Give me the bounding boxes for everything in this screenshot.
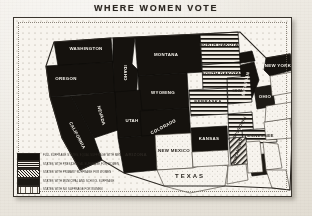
legend-swatch-municipal-suffrage bbox=[17, 178, 40, 186]
state-label-WY: WYOMING bbox=[151, 90, 175, 95]
legend-row: STATES WITH MUNICIPAL AND SCHOOL SUFFRAG… bbox=[17, 178, 149, 185]
map-legend: FULL SUFFRAGE STATES, EQUAL SUFFRAGE WIT… bbox=[17, 153, 149, 194]
state-label-NM: NEW MEXICO bbox=[158, 148, 190, 153]
legend-row: STATES WITH PRESIDENTIAL SUFFRAGE FOR WO… bbox=[17, 161, 149, 168]
state-label-MT: MONTANA bbox=[154, 52, 179, 57]
state-label-TN: TENNESSEE bbox=[244, 133, 273, 138]
legend-label-presidential-suffrage: STATES WITH PRESIDENTIAL SUFFRAGE FOR WO… bbox=[43, 164, 119, 167]
legend-swatch-primary-suffrage bbox=[17, 169, 40, 177]
map-frame: WASHINGTON OREGON IDAHO MONTANA WYOMING … bbox=[13, 17, 292, 197]
legend-row: STATES WITH PRIMARY SUFFRAGE FOR WOMEN bbox=[17, 170, 149, 177]
state-label-NY: NEW YORK bbox=[265, 63, 291, 68]
legend-swatch-full-suffrage bbox=[17, 153, 40, 161]
state-label-ID: IDAHO bbox=[123, 65, 128, 81]
state-label-OH: OHIO bbox=[259, 94, 272, 99]
state-label-UT: UTAH bbox=[125, 118, 138, 123]
legend-row: STATES WITH NO SUFFRAGE FOR WOMEN bbox=[17, 187, 149, 194]
legend-label-primary-suffrage: STATES WITH PRIMARY SUFFRAGE FOR WOMEN bbox=[43, 172, 111, 175]
state-label-ND: NORTH DAKOTA bbox=[200, 42, 239, 47]
legend-label-full-suffrage: FULL SUFFRAGE STATES, EQUAL SUFFRAGE WIT… bbox=[43, 155, 121, 158]
legend-label-no-suffrage: STATES WITH NO SUFFRAGE FOR WOMEN bbox=[43, 189, 103, 192]
state-label-TX: TEXAS bbox=[175, 173, 205, 179]
state-label-KS: KANSAS bbox=[199, 136, 219, 141]
legend-label-municipal-suffrage: STATES WITH MUNICIPAL AND SCHOOL SUFFRAG… bbox=[43, 181, 114, 184]
legend-swatch-no-suffrage bbox=[17, 186, 40, 194]
state-label-SD: SOUTH DAKOTA bbox=[202, 71, 241, 76]
legend-swatch-presidential-suffrage bbox=[17, 161, 40, 169]
state-label-OR: OREGON bbox=[55, 76, 76, 81]
page-title: WHERE WOMEN VOTE bbox=[0, 3, 312, 13]
state-label-NE: NEBRASKA bbox=[194, 99, 222, 104]
state-label-WA: WASHINGTON bbox=[69, 46, 102, 51]
legend-row: FULL SUFFRAGE STATES, EQUAL SUFFRAGE WIT… bbox=[17, 153, 149, 160]
